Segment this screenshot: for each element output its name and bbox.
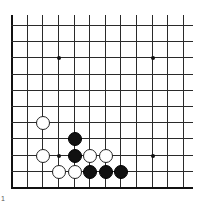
star-point bbox=[151, 154, 155, 158]
white-stone[interactable] bbox=[36, 116, 50, 130]
star-point bbox=[57, 154, 61, 158]
star-point bbox=[151, 56, 155, 60]
grid-horizontal-line bbox=[11, 138, 193, 139]
grid-horizontal-line bbox=[11, 74, 193, 75]
white-stone[interactable] bbox=[99, 149, 113, 163]
board-bottom-edge bbox=[11, 187, 193, 189]
grid-horizontal-line bbox=[11, 90, 193, 91]
black-stone[interactable] bbox=[68, 132, 82, 146]
grid-horizontal-line bbox=[11, 106, 193, 107]
corner-mark: 1 bbox=[1, 195, 5, 202]
white-stone[interactable] bbox=[36, 149, 50, 163]
white-stone[interactable] bbox=[83, 149, 97, 163]
grid-horizontal-line bbox=[11, 57, 193, 58]
grid-horizontal-line bbox=[11, 25, 193, 26]
white-stone[interactable] bbox=[68, 165, 82, 179]
go-board bbox=[0, 0, 204, 204]
black-stone[interactable] bbox=[114, 165, 128, 179]
grid-horizontal-line bbox=[11, 41, 193, 42]
white-stone[interactable] bbox=[52, 165, 66, 179]
black-stone[interactable] bbox=[99, 165, 113, 179]
black-stone[interactable] bbox=[68, 149, 82, 163]
star-point bbox=[57, 56, 61, 60]
black-stone[interactable] bbox=[83, 165, 97, 179]
